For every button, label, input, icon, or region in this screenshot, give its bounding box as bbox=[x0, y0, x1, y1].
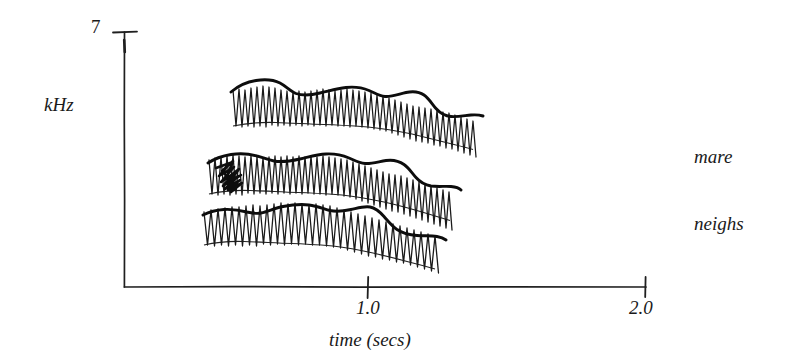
band-1-lower-contour bbox=[233, 122, 473, 149]
x-axis-label: time (secs) bbox=[329, 329, 411, 351]
trace-group-band-1 bbox=[231, 80, 483, 157]
axes-group bbox=[113, 32, 646, 298]
x-axis-tick-label-2: 2.0 bbox=[629, 297, 653, 319]
x-axis-tick-label-1: 1.0 bbox=[356, 297, 380, 319]
y-axis-tick-7 bbox=[113, 32, 137, 33]
trace-annotation-line-2: neighs bbox=[694, 213, 744, 235]
x-axis-line bbox=[124, 287, 646, 288]
axis-ink-mark bbox=[124, 40, 125, 52]
spectrogram-figure: kHz 7 1.0 2.0 time (secs) mare neighs bbox=[0, 0, 785, 362]
x-axis-tick-1 bbox=[368, 277, 369, 298]
trace-group-band-2 bbox=[208, 154, 461, 230]
trace-annotation: mare neighs bbox=[694, 101, 744, 280]
plot-canvas bbox=[0, 0, 785, 362]
band-1-striations bbox=[233, 86, 476, 157]
y-axis-label: kHz bbox=[44, 94, 74, 116]
y-axis-tick-label-7: 7 bbox=[91, 16, 101, 38]
trace-annotation-line-1: mare bbox=[694, 146, 744, 168]
